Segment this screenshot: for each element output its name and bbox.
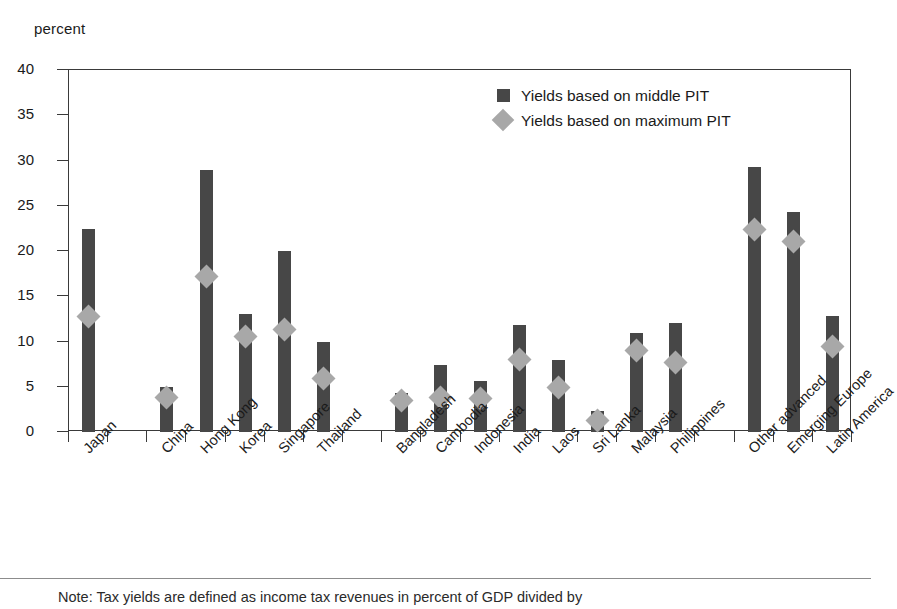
y-tick-mark [57,386,68,387]
legend-square-icon [497,89,510,102]
x-tick-mark [68,431,69,442]
y-tick-label: 20 [0,241,34,258]
y-axis-title: percent [34,20,85,37]
y-tick-label: 5 [0,377,34,394]
y-tick-mark [57,431,68,432]
diamond-marker [742,217,766,241]
y-tick-mark [57,205,68,206]
y-tick-mark [57,341,68,342]
diamond-marker [77,304,101,328]
plot-area [68,69,851,431]
y-tick-label: 25 [0,196,34,213]
legend-item: Yields based on maximum PIT [497,108,731,133]
note-divider [0,578,871,579]
x-tick-mark [734,431,735,442]
diamond-marker [194,264,218,288]
legend-label: Yields based on middle PIT [521,87,709,105]
x-tick-mark [146,431,147,442]
legend-item: Yields based on middle PIT [497,83,731,108]
y-tick-label: 10 [0,332,34,349]
legend-label: Yields based on maximum PIT [521,112,731,130]
legend: Yields based on middle PITYields based o… [497,83,731,133]
y-tick-mark [57,295,68,296]
diamond-marker [781,229,805,253]
y-tick-label: 0 [0,422,34,439]
y-tick-mark [57,69,68,70]
bar [82,229,95,432]
y-tick-label: 40 [0,60,34,77]
y-tick-label: 30 [0,151,34,168]
diamond-marker [664,350,688,374]
note-text: Note: Tax yields are defined as income t… [58,589,582,605]
diamond-marker [311,367,335,391]
diamond-marker [233,325,257,349]
y-tick-mark [57,114,68,115]
diamond-marker [272,318,296,342]
diamond-marker [155,386,179,410]
bar [200,170,213,432]
diamond-marker [507,348,531,372]
y-tick-mark [57,160,68,161]
diamond-marker [625,339,649,363]
y-tick-label: 35 [0,105,34,122]
y-tick-mark [57,250,68,251]
legend-diamond-icon [497,114,510,127]
diamond-marker [820,335,844,359]
diamond-marker [546,376,570,400]
bar [748,167,761,432]
y-tick-label: 15 [0,286,34,303]
diamond-marker [390,388,414,412]
x-tick-mark [381,431,382,442]
